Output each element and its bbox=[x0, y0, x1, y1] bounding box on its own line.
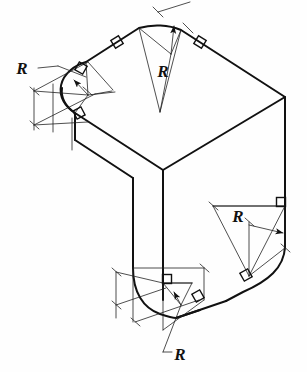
caption-cutoff-strip bbox=[0, 365, 307, 372]
radius-label-top-left: R bbox=[15, 59, 27, 78]
radius-label-top-center: R bbox=[156, 62, 168, 81]
paper-background bbox=[0, 0, 307, 372]
isometric-drawing-svg: R R R R bbox=[0, 0, 307, 372]
radius-label-right: R bbox=[231, 207, 243, 226]
radius-label-bottom: R bbox=[173, 345, 185, 364]
drawing-canvas: R R R R bbox=[0, 0, 307, 372]
